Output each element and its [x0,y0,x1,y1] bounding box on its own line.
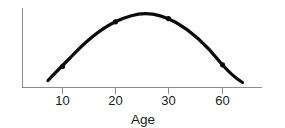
x-axis-title: Age [131,112,155,127]
x-tick-label-20: 20 [108,93,122,108]
data-marker-10 [60,64,65,69]
x-tick-label-60: 60 [215,93,229,108]
data-marker-20 [113,19,118,24]
x-tick-label-30: 30 [161,93,175,108]
age-curve-chart: 10 20 30 60 Age [0,0,285,128]
x-tick-label-10: 10 [55,93,69,108]
chart-background [0,0,285,128]
data-marker-60 [220,62,225,67]
data-marker-30 [166,16,171,21]
